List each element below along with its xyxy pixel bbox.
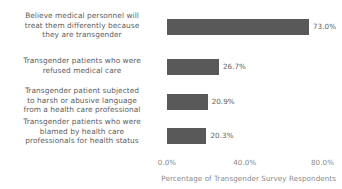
category-label-0-line-2: they are transgender bbox=[2, 30, 162, 40]
plot-area: 73.0% 26.7% 20.9% 20.3% bbox=[167, 0, 342, 155]
category-label-3-line-2: professionals for health status bbox=[2, 136, 162, 146]
bar-row-0: 73.0% bbox=[167, 19, 336, 35]
x-axis-caption: Percentage of Transgender Survey Respond… bbox=[161, 174, 336, 184]
bar-value-2: 20.9% bbox=[208, 94, 235, 110]
category-label-2-line-2: from a health care professional bbox=[2, 105, 162, 115]
x-axis: 0.0% 40.0% 80.0% bbox=[167, 158, 342, 170]
category-label-2: Transgender patient subjected to harsh o… bbox=[2, 86, 162, 115]
x-tick-label-2: 80.0% bbox=[311, 158, 334, 168]
bar-row-1: 26.7% bbox=[167, 59, 246, 75]
bar-3 bbox=[167, 128, 206, 144]
category-label-1-line-1: refused medical care bbox=[2, 66, 162, 76]
category-label-3: Transgender patients who were blamed by … bbox=[2, 117, 162, 146]
bar-value-0: 73.0% bbox=[309, 19, 336, 35]
category-label-2-line-0: Transgender patient subjected bbox=[2, 86, 162, 96]
bar-2 bbox=[167, 94, 208, 110]
bar-0 bbox=[167, 19, 309, 35]
category-label-3-line-0: Transgender patients who were bbox=[2, 117, 162, 127]
category-label-0-line-0: Believe medical personnel will bbox=[2, 11, 162, 21]
category-label-3-line-1: blamed by health care bbox=[2, 127, 162, 137]
category-label-1-line-0: Transgender patients who were bbox=[2, 56, 162, 66]
bar-chart: Believe medical personnel will treat the… bbox=[0, 0, 342, 189]
bar-row-3: 20.3% bbox=[167, 128, 234, 144]
category-label-0: Believe medical personnel will treat the… bbox=[2, 11, 162, 40]
bar-1 bbox=[167, 59, 219, 75]
bar-value-1: 26.7% bbox=[219, 59, 246, 75]
category-label-2-line-1: to harsh or abusive language bbox=[2, 96, 162, 106]
x-tick-label-0: 0.0% bbox=[158, 158, 176, 168]
bar-row-2: 20.9% bbox=[167, 94, 235, 110]
x-tick-label-1: 40.0% bbox=[233, 158, 256, 168]
bar-value-3: 20.3% bbox=[206, 128, 233, 144]
category-label-1: Transgender patients who were refused me… bbox=[2, 56, 162, 75]
category-label-0-line-1: treat them differently because bbox=[2, 21, 162, 31]
